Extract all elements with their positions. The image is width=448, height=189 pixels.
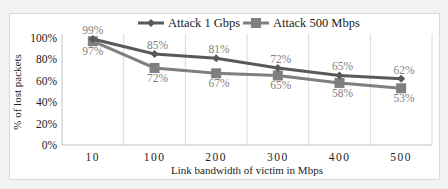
- data-label: 67%: [209, 77, 231, 89]
- y-tick-label: 40%: [36, 96, 58, 108]
- data-label: 85%: [147, 39, 169, 51]
- diamond-marker: [397, 75, 405, 83]
- data-label: 53%: [394, 92, 416, 104]
- data-label: 72%: [270, 53, 292, 65]
- legend: Attack 1 GbpsAttack 500 Mbps: [138, 16, 360, 30]
- diamond-marker: [147, 19, 155, 27]
- y-tick-label: 100%: [30, 32, 57, 44]
- diamond-marker: [151, 50, 159, 58]
- data-label: 65%: [270, 79, 292, 91]
- x-tick-label: 100: [144, 151, 166, 163]
- x-tick-label: 500: [390, 151, 412, 163]
- x-tick-label: 300: [267, 151, 289, 163]
- diamond-marker: [212, 54, 220, 62]
- y-tick-label: 60%: [36, 75, 58, 87]
- data-label: 97%: [82, 45, 104, 57]
- data-label: 58%: [332, 87, 354, 99]
- y-axis-title: % of lost packets: [11, 54, 23, 129]
- y-tick-label: 0%: [42, 139, 58, 151]
- data-label: 72%: [147, 72, 169, 84]
- data-label: 65%: [332, 60, 354, 72]
- x-tick-label: 400: [329, 151, 351, 163]
- x-axis-title: Link bandwidth of victim in Mbps: [171, 164, 323, 176]
- y-tick-label: 80%: [36, 53, 58, 65]
- x-tick-label: 10: [86, 151, 101, 163]
- data-label: 81%: [209, 43, 231, 55]
- line-chart: 0%20%40%60%80%100% 10100200300400500 99%…: [0, 0, 448, 189]
- data-label: 99%: [82, 24, 104, 36]
- legend-label: Attack 500 Mbps: [273, 16, 360, 30]
- y-axis-ticks: 0%20%40%60%80%100%: [30, 32, 57, 151]
- y-tick-label: 20%: [36, 118, 58, 130]
- data-label: 62%: [394, 64, 416, 76]
- legend-label: Attack 1 Gbps: [168, 16, 240, 30]
- x-axis-ticks: 10100200300400500: [86, 151, 412, 163]
- square-marker: [251, 18, 261, 28]
- x-tick-label: 200: [205, 151, 227, 163]
